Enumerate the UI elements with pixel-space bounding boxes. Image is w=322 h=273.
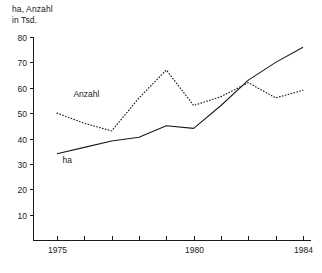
data-series-group (57, 47, 303, 154)
series-label-ha: ha (62, 155, 72, 165)
y-tick-label-10: 10 (18, 211, 28, 221)
y-tick-label-70: 70 (18, 58, 28, 68)
y-tick-label-50: 50 (18, 109, 28, 119)
y-tick-label-40: 40 (18, 135, 28, 145)
series-line-anzahl (57, 70, 303, 131)
chart-plot-area: 1020304050607080 197519801984 Anzahlha (0, 0, 322, 273)
x-tick-label-1980: 1980 (185, 245, 204, 255)
series-label-anzahl: Anzahl (73, 89, 99, 99)
y-tick-label-30: 30 (18, 160, 28, 170)
line-chart: ha, Anzahl in Tsd. 1020304050607080 1975… (0, 0, 322, 273)
x-axis: 197519801984 (33, 236, 313, 255)
x-tick-label-1984: 1984 (294, 245, 313, 255)
y-axis: 1020304050607080 (18, 33, 34, 241)
series-annotations: Anzahlha (62, 89, 99, 165)
y-tick-label-80: 80 (18, 33, 28, 43)
y-tick-label-60: 60 (18, 84, 28, 94)
x-tick-label-1975: 1975 (48, 245, 67, 255)
series-line-ha (57, 47, 303, 154)
y-tick-label-20: 20 (18, 185, 28, 195)
